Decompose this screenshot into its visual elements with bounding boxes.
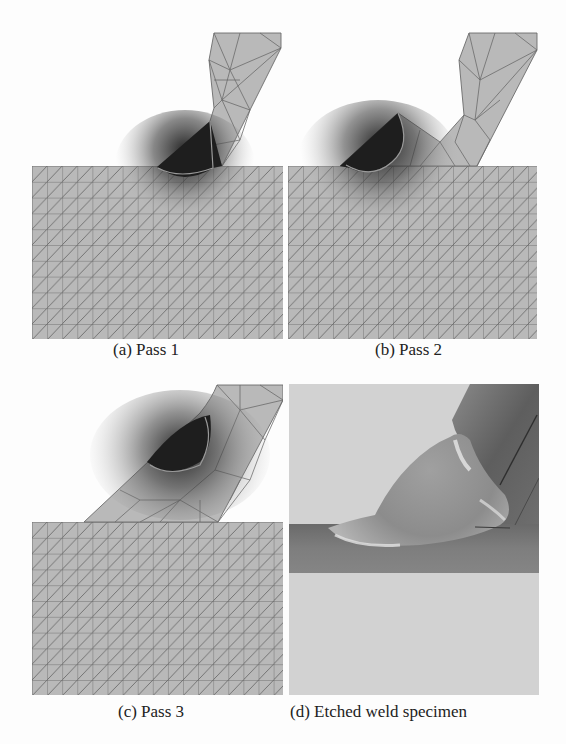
fe-mesh-pass-2 xyxy=(0,0,566,372)
caption-b: (b) Pass 2 xyxy=(375,341,442,359)
etched-weld-photo xyxy=(289,384,539,695)
panel-c-pass-3 xyxy=(0,372,283,744)
caption-c: (c) Pass 3 xyxy=(118,703,184,721)
panel-d-etched-specimen xyxy=(289,384,539,695)
caption-d: (d) Etched weld specimen xyxy=(290,703,467,721)
fe-mesh-pass-3 xyxy=(0,372,283,744)
panel-b-pass-2 xyxy=(0,0,566,372)
